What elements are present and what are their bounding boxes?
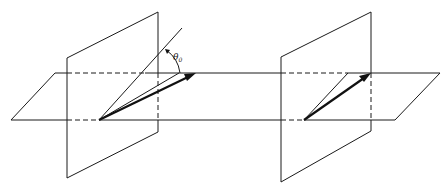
left-plane-bottom-edge xyxy=(67,132,158,178)
left-vectors: θ0 xyxy=(99,28,196,120)
right-plane-bottom-edge xyxy=(281,131,371,182)
horizontal-plane-right-edge xyxy=(395,73,440,120)
horizontal-plane-left-edge xyxy=(11,73,55,120)
diagram-figure: θ0 xyxy=(0,0,448,191)
right-vector-arrow-shaft xyxy=(304,78,364,120)
horizontal-plane xyxy=(11,73,440,120)
left-plane-top-edge xyxy=(67,12,158,58)
left-projection-line xyxy=(99,73,179,120)
left-vector-arrowhead-icon xyxy=(184,73,196,81)
left-vector-arrow-shaft xyxy=(99,77,188,120)
right-plane-top-edge xyxy=(281,12,371,57)
right-vectors xyxy=(304,73,371,120)
left-inclined-line xyxy=(99,28,182,120)
right-projection-line xyxy=(304,73,348,120)
left-vertical-plane xyxy=(67,12,158,178)
theta-label: θ0 xyxy=(173,52,182,63)
theta-arc-arrowhead-icon xyxy=(165,49,170,54)
